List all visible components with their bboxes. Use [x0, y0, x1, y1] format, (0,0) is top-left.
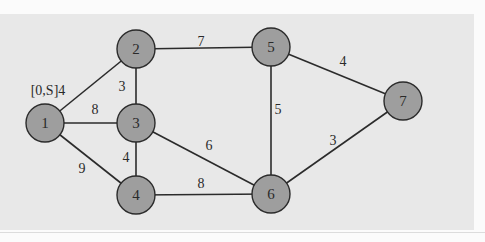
- edge-weight-4-6: 8: [198, 176, 205, 191]
- node-2: 2: [117, 30, 155, 68]
- node-label: 5: [267, 39, 275, 55]
- node-7: 7: [384, 82, 422, 120]
- nodes-layer: 1234567: [26, 28, 422, 214]
- edges-layer: [45, 47, 403, 195]
- node-6: 6: [252, 175, 290, 213]
- node-label: 3: [132, 115, 140, 131]
- node-label: 4: [132, 187, 140, 203]
- edge-weight-2-3: 3: [119, 79, 126, 94]
- node-annotation: [0,S]4: [31, 83, 66, 98]
- edge-4-6: [136, 194, 271, 195]
- node-label: 2: [132, 41, 140, 57]
- edge-5-7: [271, 47, 403, 101]
- page: 8937468543 1234567 [0,S]4: [0, 0, 485, 242]
- node-label: 7: [399, 93, 407, 109]
- edge-weight-1-4: 9: [79, 161, 86, 176]
- graph-diagram: 8937468543 1234567 [0,S]4: [0, 0, 485, 242]
- node-3: 3: [117, 104, 155, 142]
- edge-weight-6-7: 3: [330, 133, 337, 148]
- edge-weight-1-3: 8: [92, 102, 99, 117]
- edge-weight-2-5: 7: [198, 34, 205, 49]
- node-label: 1: [41, 115, 49, 131]
- node-1: 1: [26, 104, 64, 142]
- node-4: 4: [117, 176, 155, 214]
- node-5: 5: [252, 28, 290, 66]
- edge-weight-5-7: 4: [340, 54, 347, 69]
- edge-weight-3-6: 6: [206, 138, 213, 153]
- edge-weight-3-4: 4: [123, 150, 130, 165]
- node-label: 6: [267, 186, 275, 202]
- edge-6-7: [271, 101, 403, 194]
- annotations-layer: [0,S]4: [31, 83, 66, 98]
- edge-weight-5-6: 5: [275, 102, 282, 117]
